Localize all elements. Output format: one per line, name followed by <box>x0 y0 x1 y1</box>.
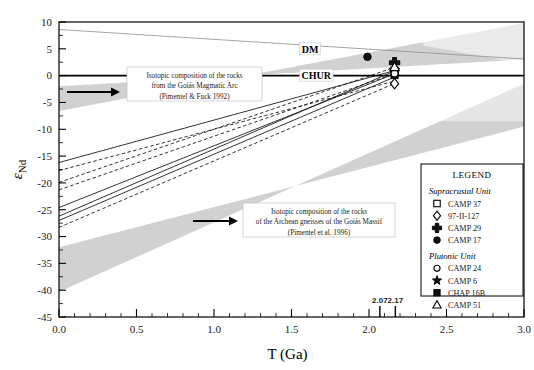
x-tick-label: 2.5 <box>440 323 454 335</box>
y-tick-label: -5 <box>43 96 53 108</box>
data-point-legend-camp-24 <box>434 265 440 271</box>
legend-group-heading: Supracrustal Unit <box>429 186 491 196</box>
y-tick-label: -25 <box>37 204 52 216</box>
legend-item-label: CAMP 29 <box>448 224 481 233</box>
goias-magmatic-arc-note-line: from the Goiás Magmatic Arc <box>151 82 237 90</box>
data-point-legend-camp-17 <box>434 237 441 244</box>
legend-group-heading: Plutonic Unit <box>428 251 476 261</box>
x-tick-label: 3.0 <box>517 323 531 335</box>
archean-gneisses-note-line: (Pimentel et al. 1996) <box>288 229 351 237</box>
legend-item-label: CAMP 24 <box>448 264 481 273</box>
figure-root: DMCHUR 1050-5-10-15-20-25-30-35-40-450.0… <box>0 0 534 370</box>
legend-box: LEGENDSupracrustal UnitCAMP 3797-II-127C… <box>421 164 523 310</box>
y-tick-label: -30 <box>37 230 52 242</box>
y-tick-label: 0 <box>47 69 53 81</box>
y-tick-label: -10 <box>37 123 52 135</box>
x-axis-title: T (Ga) <box>267 346 307 363</box>
goias-magmatic-arc-note-line: (Pimentel & Fuck 1992) <box>159 93 230 101</box>
legend-item-label: CAMP 37 <box>448 200 481 209</box>
legend-item-label: CHAP 16B <box>448 289 486 298</box>
legend-title: LEGEND <box>453 170 492 180</box>
y-tick-label: 10 <box>41 16 53 28</box>
data-point-camp-17 <box>364 53 371 60</box>
legend-item-label: CAMP 17 <box>448 236 481 245</box>
x-tick-label: 0.5 <box>130 323 144 335</box>
x-tick-label: 1.0 <box>207 323 221 335</box>
archean-gneisses-note-line: Isotopic composition of the rocks <box>271 208 367 216</box>
epsilon-nd-vs-time-chart: DMCHUR 1050-5-10-15-20-25-30-35-40-450.0… <box>0 0 534 370</box>
dm-label: DM <box>302 44 319 55</box>
y-tick-label: -35 <box>37 257 52 269</box>
legend-item-label: 97-II-127 <box>448 212 479 221</box>
data-point-legend-camp-37 <box>434 200 440 206</box>
x-special-tick-label: 2.17 <box>388 296 404 305</box>
x-tick-label: 1.5 <box>285 323 299 335</box>
chur-label: CHUR <box>302 70 332 81</box>
y-tick-label: 5 <box>47 43 53 55</box>
y-tick-label: -40 <box>37 284 52 296</box>
y-tick-label: -45 <box>37 311 52 323</box>
archean-gneisses-note-line: of the Archean gneisses of the Goiás Mas… <box>256 218 383 226</box>
data-point-legend-chap-16b <box>434 290 440 296</box>
legend-item-label: CAMP 6 <box>448 277 477 286</box>
x-tick-label: 0.0 <box>52 323 66 335</box>
goias-magmatic-arc-note-line: Isotopic composition of the rocks <box>146 72 242 80</box>
legend-item-label: CAMP 51 <box>448 301 481 310</box>
x-tick-label: 2.0 <box>362 323 376 335</box>
y-tick-label: -15 <box>37 150 52 162</box>
y-tick-label: -20 <box>37 177 52 189</box>
x-special-tick-label: 2.07 <box>372 296 388 305</box>
